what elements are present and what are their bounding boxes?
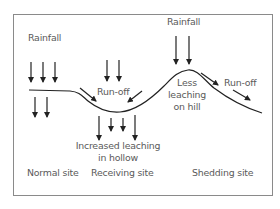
runoff-label-hill: Run-off bbox=[224, 77, 256, 89]
increased-leaching-line2: in hollow bbox=[70, 152, 166, 164]
leaching-diagram: Rainfall Rainfall Run-off Run-off Less l… bbox=[0, 0, 280, 209]
increased-leaching-line1: Increased leaching bbox=[70, 140, 166, 152]
rain-arrows-receiving-site bbox=[107, 60, 119, 81]
less-leaching-line3: on hill bbox=[167, 101, 207, 113]
rain-arrows-normal-site bbox=[31, 62, 55, 82]
rain-arrows-hill bbox=[176, 36, 189, 64]
runoff-label-hollow: Run-off bbox=[97, 86, 129, 98]
less-leaching-line2: leaching bbox=[167, 89, 207, 101]
site-label-normal: Normal site bbox=[27, 167, 79, 179]
leach-arrows-normal-site bbox=[35, 97, 47, 117]
rainfall-label-hill: Rainfall bbox=[167, 16, 200, 28]
site-label-receiving: Receiving site bbox=[91, 167, 154, 179]
site-label-shedding: Shedding site bbox=[192, 167, 253, 179]
leach-arrows-hollow bbox=[99, 115, 135, 140]
less-leaching-line1: Less bbox=[167, 77, 207, 89]
rainfall-label-left: Rainfall bbox=[28, 32, 61, 44]
